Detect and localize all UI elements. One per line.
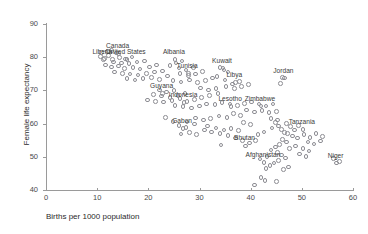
data-point	[130, 55, 135, 60]
data-point	[135, 60, 140, 65]
data-point	[223, 78, 228, 83]
annotated-data-point	[101, 57, 106, 62]
data-point	[252, 110, 257, 115]
data-point	[204, 102, 209, 107]
annotated-data-point	[334, 161, 339, 166]
data-point	[246, 82, 251, 87]
data-point	[201, 118, 206, 123]
data-point	[297, 152, 302, 157]
data-point	[193, 116, 198, 121]
data-point	[287, 146, 292, 151]
data-point	[304, 154, 309, 159]
data-point	[301, 146, 306, 151]
data-point	[141, 76, 146, 81]
y-tick-mark	[43, 57, 47, 58]
data-point	[103, 63, 108, 68]
annotated-data-point	[160, 91, 165, 96]
data-point	[112, 70, 117, 75]
point-annotation-label: Kuwait	[212, 57, 232, 64]
data-point	[264, 166, 269, 171]
x-tick-label: 60	[342, 193, 364, 202]
annotated-data-point	[262, 160, 267, 165]
x-tick-label: 40	[240, 193, 262, 202]
data-point	[147, 65, 152, 70]
data-point	[187, 78, 192, 83]
data-point	[295, 136, 300, 141]
data-point	[131, 65, 136, 70]
x-tick-mark	[46, 188, 47, 191]
x-axis-title: Births per 1000 population	[46, 212, 139, 221]
y-axis-line	[46, 23, 47, 191]
data-point	[248, 122, 253, 127]
data-point	[151, 92, 156, 97]
point-annotation-label: Zimbabwe	[245, 95, 275, 102]
data-point	[149, 75, 154, 80]
data-point	[202, 128, 207, 133]
point-annotation-label: Albania	[163, 48, 185, 55]
x-tick-mark	[97, 188, 98, 191]
data-point	[217, 114, 222, 119]
data-point	[193, 72, 198, 77]
data-point	[200, 69, 205, 74]
data-point	[290, 134, 295, 139]
scatter-plot-figure: 405060708090 0102030405060 CanadaLiberia…	[0, 0, 368, 234]
data-point	[276, 158, 281, 163]
annotated-data-point	[243, 144, 248, 149]
data-point	[275, 118, 280, 123]
data-point	[306, 140, 311, 145]
data-point	[274, 109, 279, 114]
x-tick-label: 50	[291, 193, 313, 202]
data-point	[144, 71, 149, 76]
point-annotation-label: Libya	[226, 71, 242, 78]
x-tick-mark	[302, 188, 303, 191]
data-point	[247, 141, 252, 146]
data-point	[189, 106, 194, 111]
annotated-data-point	[186, 71, 191, 76]
data-point	[274, 179, 279, 184]
data-point	[203, 78, 208, 83]
data-point	[195, 80, 200, 85]
point-annotation-label: Tunisia	[177, 62, 198, 69]
data-point	[242, 101, 247, 106]
data-point	[264, 104, 269, 109]
point-annotation-label: Bhutan	[234, 134, 255, 141]
annotated-data-point	[282, 76, 287, 81]
point-annotation-label: Guyana	[150, 82, 173, 89]
data-point	[199, 95, 204, 100]
data-point	[244, 108, 249, 113]
data-point	[263, 178, 268, 183]
x-tick-label: 0	[35, 193, 57, 202]
data-point	[197, 104, 202, 109]
data-point	[237, 79, 242, 84]
data-point	[272, 161, 277, 166]
point-annotation-label: Niger	[328, 152, 344, 159]
x-tick-mark	[353, 188, 354, 191]
data-point	[187, 130, 192, 135]
data-point	[226, 133, 231, 138]
data-point	[163, 115, 168, 120]
x-tick-mark	[200, 188, 201, 191]
data-point	[270, 126, 275, 131]
point-annotation-label: Lesotho	[218, 95, 241, 102]
data-point	[218, 131, 223, 136]
data-point	[318, 139, 323, 144]
data-point	[153, 99, 158, 104]
point-annotation-label: Tanzania	[289, 118, 315, 125]
annotated-data-point	[233, 80, 238, 85]
data-point	[194, 132, 199, 137]
data-point	[165, 74, 170, 79]
data-point	[235, 103, 240, 108]
data-point	[308, 135, 313, 140]
data-point	[281, 167, 286, 172]
data-point	[239, 84, 244, 89]
data-point	[284, 140, 289, 145]
x-tick-mark	[251, 188, 252, 191]
data-point	[117, 55, 122, 60]
annotated-data-point	[181, 126, 186, 131]
data-point	[179, 80, 184, 85]
data-point	[238, 113, 243, 118]
point-annotation-label: Afghanistan	[246, 151, 281, 158]
data-point	[120, 71, 125, 76]
plot-area: 405060708090 0102030405060 CanadaLiberia…	[0, 0, 368, 234]
data-point	[111, 60, 116, 65]
